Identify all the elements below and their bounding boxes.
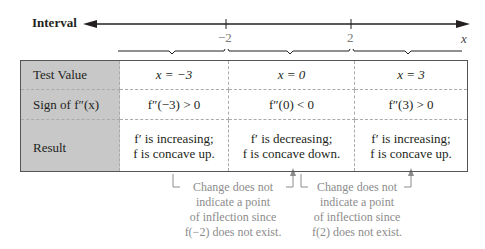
table-cell: f′ is decreasing; f is concave down. [229,120,355,172]
table-row-result: Result f′ is increasing; f is concave up… [21,120,468,172]
note-2: Change does not indicate a point of infl… [298,180,416,240]
number-line [83,19,470,29]
table-cell: f″(3) > 0 [355,90,468,120]
table-cell: x = −3 [120,61,229,90]
note-neg2: Change does not indicate a point of infl… [172,180,294,240]
result-line: f is concave down. [235,146,348,161]
row-header: Test Value [21,61,120,90]
row-header: Result [21,120,120,172]
test-value-table: Test Value x = −3 x = 0 x = 3 Sign of f″… [20,60,468,172]
table-cell: f′ is increasing; f is concave up. [355,120,468,172]
interval-braces [118,49,462,54]
table-cell: x = 3 [355,61,468,90]
right-arrow-icon [456,20,470,28]
result-line: f is concave up. [126,146,222,161]
table-row-sign: Sign of f″(x) f″(−3) > 0 f″(0) < 0 f″(3)… [21,90,468,120]
left-arrow-icon [83,20,97,28]
result-line: f′ is increasing; [126,131,222,146]
table-cell: f″(−3) > 0 [120,90,229,120]
table-row-test-value: Test Value x = −3 x = 0 x = 3 [21,61,468,90]
table-cell: x = 0 [229,61,355,90]
result-line: f′ is increasing; [361,131,461,146]
table-cell: f″(0) < 0 [229,90,355,120]
row-header: Sign of f″(x) [21,90,120,120]
result-line: f′ is decreasing; [235,131,348,146]
result-line: f is concave up. [361,146,461,161]
table-cell: f′ is increasing; f is concave up. [120,120,229,172]
